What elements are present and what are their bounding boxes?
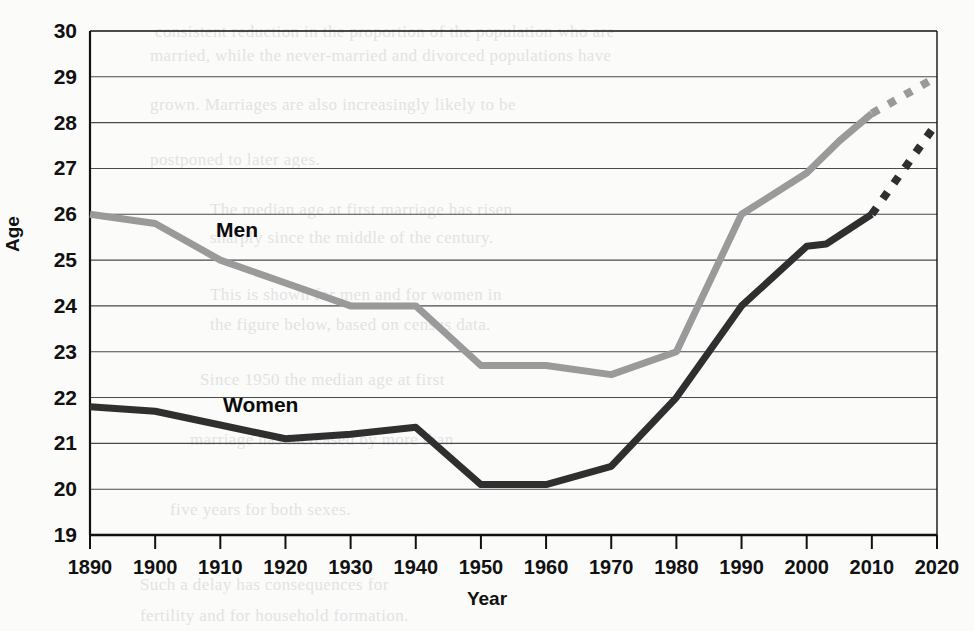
y-tick-label: 20	[33, 478, 77, 499]
x-tick-label: 1960	[511, 557, 581, 577]
x-tick-label: 2010	[837, 557, 907, 577]
y-tick-label: 23	[33, 341, 77, 362]
x-tick-label: 1940	[381, 557, 451, 577]
axes	[90, 31, 937, 535]
x-axis-ticks	[90, 535, 937, 549]
x-tick-label: 1970	[576, 557, 646, 577]
chart-page: consistent reduction in the proportion o…	[0, 0, 974, 631]
y-tick-label: 19	[33, 524, 77, 545]
x-axis-title: Year	[0, 588, 974, 610]
data-series	[90, 77, 937, 485]
line-chart	[0, 0, 974, 631]
series-projection-men	[872, 77, 937, 114]
x-tick-label: 1930	[316, 557, 386, 577]
x-tick-label: 1890	[55, 557, 125, 577]
x-tick-label: 1920	[250, 557, 320, 577]
y-tick-label: 27	[33, 157, 77, 178]
series-label-men: Men	[216, 218, 258, 242]
y-tick-label: 29	[33, 66, 77, 87]
y-tick-label: 26	[33, 203, 77, 224]
y-tick-label: 30	[33, 20, 77, 41]
y-tick-label: 24	[33, 295, 77, 316]
series-line-men	[90, 113, 872, 374]
x-tick-label: 2020	[902, 557, 972, 577]
y-tick-label: 28	[33, 112, 77, 133]
y-tick-label: 22	[33, 387, 77, 408]
x-tick-label: 1900	[120, 557, 190, 577]
x-tick-label: 1950	[446, 557, 516, 577]
x-tick-label: 1910	[185, 557, 255, 577]
y-tick-label: 25	[33, 249, 77, 270]
x-tick-label: 1980	[641, 557, 711, 577]
y-tick-label: 21	[33, 432, 77, 453]
x-tick-label: 1990	[707, 557, 777, 577]
y-axis-title: Age	[2, 216, 24, 252]
series-label-women: Women	[223, 393, 298, 417]
x-tick-label: 2000	[772, 557, 842, 577]
